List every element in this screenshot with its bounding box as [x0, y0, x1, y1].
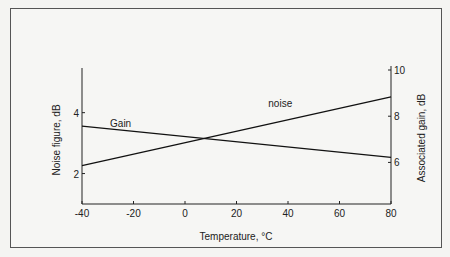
- left-y-tick-label: 2: [73, 169, 79, 180]
- x-axis-title: Temperature, °C: [200, 231, 273, 242]
- right-y-tick-label: 8: [394, 111, 400, 122]
- x-tick-label: 40: [282, 208, 294, 219]
- x-tick-label: 80: [385, 208, 397, 219]
- left-y-tick-label: 4: [73, 108, 79, 119]
- left-y-axis-title: Noise figure, dB: [51, 104, 62, 175]
- axes: [82, 66, 391, 204]
- right-y-tick-label: 6: [394, 157, 400, 168]
- dual-axis-line-chart: -40-20020406080246810 noiseGain Temperat…: [0, 0, 450, 257]
- x-tick-label: -40: [75, 208, 90, 219]
- labels: noiseGain: [110, 98, 293, 129]
- x-tick-label: 60: [334, 208, 346, 219]
- right-y-axis-title: Associated gain, dB: [416, 93, 427, 182]
- x-tick-label: 0: [182, 208, 188, 219]
- x-tick-label: 20: [231, 208, 243, 219]
- series-lines: [82, 97, 391, 166]
- x-tick-label: -20: [126, 208, 141, 219]
- series-label-noise: noise: [268, 98, 292, 109]
- series-label-gain: Gain: [110, 118, 131, 129]
- right-y-tick-label: 10: [394, 65, 406, 76]
